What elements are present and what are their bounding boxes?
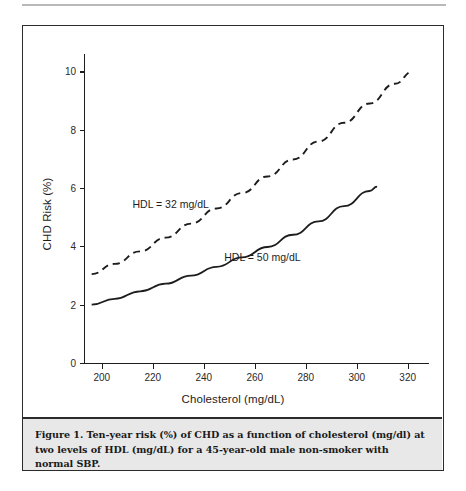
figure-box: CHD Risk (%) Cholesterol (mg/dL) 0246810… [22, 25, 444, 471]
figure-caption-text: Figure 1. Ten-year risk (%) of CHD as a … [35, 428, 430, 472]
y-tick-label: 4 [23, 241, 76, 252]
x-tick-label: 320 [399, 372, 416, 383]
chart-axes [80, 54, 429, 369]
x-tick-label: 300 [348, 372, 365, 383]
chart-series [92, 71, 413, 304]
y-tick-label: 8 [23, 124, 76, 135]
x-tick-label: 280 [297, 372, 314, 383]
series-annotation-2: HDL = 50 mg/dL [224, 251, 300, 263]
x-tick-label: 260 [246, 372, 263, 383]
plot-area: CHD Risk (%) Cholesterol (mg/dL) 0246810… [23, 26, 443, 414]
chart-canvas [23, 26, 443, 414]
figure-caption: Figure 1. Ten-year risk (%) of CHD as a … [23, 419, 442, 470]
x-tick-label: 240 [195, 372, 212, 383]
y-axis-title: CHD Risk (%) [41, 134, 53, 294]
y-tick-label: 0 [23, 358, 76, 369]
x-tick-label: 200 [93, 372, 110, 383]
series-annotation-1: HDL = 32 mg/dL [132, 198, 208, 210]
page-top-rule [22, 4, 446, 6]
y-tick-label: 2 [23, 299, 76, 310]
figure-page: CHD Risk (%) Cholesterol (mg/dL) 0246810… [0, 0, 466, 491]
y-tick-label: 10 [23, 66, 76, 77]
x-axis-title: Cholesterol (mg/dL) [23, 393, 443, 405]
y-tick-label: 6 [23, 183, 76, 194]
x-tick-label: 220 [144, 372, 161, 383]
series-line-1 [92, 71, 413, 274]
